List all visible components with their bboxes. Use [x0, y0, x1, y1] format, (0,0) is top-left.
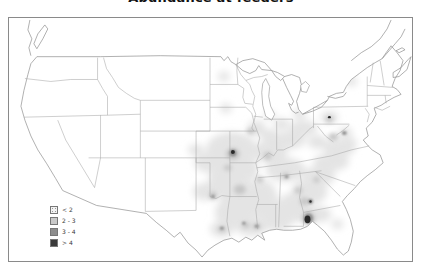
legend-chip-over-4: [50, 239, 58, 247]
page-root: { "title": "Abundance at feeders", "lege…: [0, 0, 422, 275]
lake-superior-south-shore: [236, 65, 272, 74]
lake-huron-michigan-shore: [272, 71, 299, 114]
legend-item: 3 - 4: [50, 228, 76, 236]
page-title: Abundance at feeders: [0, 0, 422, 5]
legend-label: > 4: [62, 239, 73, 247]
legend-chip-2-3: [50, 217, 58, 225]
legend-chip-under-2: [50, 206, 58, 214]
figure-frame: < 2 2 - 3 3 - 4 > 4: [8, 17, 413, 262]
legend-item: > 4: [50, 239, 76, 247]
legend-label: 3 - 4: [62, 228, 76, 236]
map-legend: < 2 2 - 3 3 - 4 > 4: [50, 206, 76, 247]
legend-item: 2 - 3: [50, 217, 76, 225]
legend-label: < 2: [62, 206, 73, 214]
legend-label: 2 - 3: [62, 217, 76, 225]
georgian-bay: [301, 81, 310, 92]
title-clip-region: Abundance at feeders: [0, 0, 422, 5]
legend-chip-3-4: [50, 228, 58, 236]
lake-michigan: [262, 79, 275, 121]
shading-level-under-2: [188, 72, 357, 238]
canada-maritimes-coast: [351, 20, 411, 78]
canada-bc-coast: [28, 20, 48, 56]
legend-item: < 2: [50, 206, 76, 214]
